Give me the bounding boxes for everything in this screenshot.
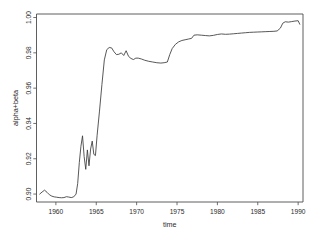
y-tick-label: 0.92 (25, 152, 32, 165)
x-axis-title: time (163, 220, 177, 229)
x-tick-label: 1965 (89, 208, 104, 215)
chart-screenshot: 0.900.920.940.960.981.00 196019651970197… (0, 0, 316, 237)
y-tick-label: 1.00 (25, 11, 32, 24)
x-tick-label: 1960 (49, 208, 64, 215)
x-tick-label: 1980 (210, 208, 225, 215)
x-tick-label: 1990 (291, 208, 306, 215)
y-axis-title: alpha+beta (11, 90, 20, 126)
y-tick-label: 0.90 (25, 187, 32, 200)
y-tick-label: 0.96 (25, 81, 32, 94)
plot-area: 0.900.920.940.960.981.00 196019651970197… (0, 0, 316, 237)
chart-background (0, 0, 316, 237)
x-tick-label: 1975 (170, 208, 185, 215)
x-tick-label: 1970 (129, 208, 144, 215)
line-chart: 0.900.920.940.960.981.00 196019651970197… (0, 0, 316, 237)
y-tick-label: 0.94 (25, 117, 32, 130)
x-tick-label: 1985 (250, 208, 265, 215)
y-tick-label: 0.98 (25, 46, 32, 59)
